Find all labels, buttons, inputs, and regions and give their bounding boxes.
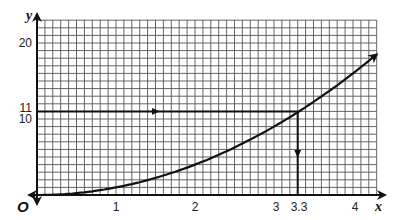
x-tick-1: 1 xyxy=(113,200,120,214)
grid xyxy=(37,20,377,195)
chart-canvas: y x O 20 11 10 1 2 3 3.3 4 xyxy=(0,0,397,220)
x-tick-4: 4 xyxy=(352,200,359,214)
y-axis-label: y xyxy=(24,8,33,23)
x-tick-2: 2 xyxy=(192,200,199,214)
x-tick-3-3: 3.3 xyxy=(291,200,308,214)
origin-label: O xyxy=(17,198,29,215)
curve-line xyxy=(37,55,377,196)
y-tick-10: 10 xyxy=(19,112,33,126)
x-axis-label: x xyxy=(374,199,382,214)
y-tick-20: 20 xyxy=(19,36,33,50)
x-tick-3: 3 xyxy=(273,200,280,214)
arrow-right-icon xyxy=(152,108,160,115)
